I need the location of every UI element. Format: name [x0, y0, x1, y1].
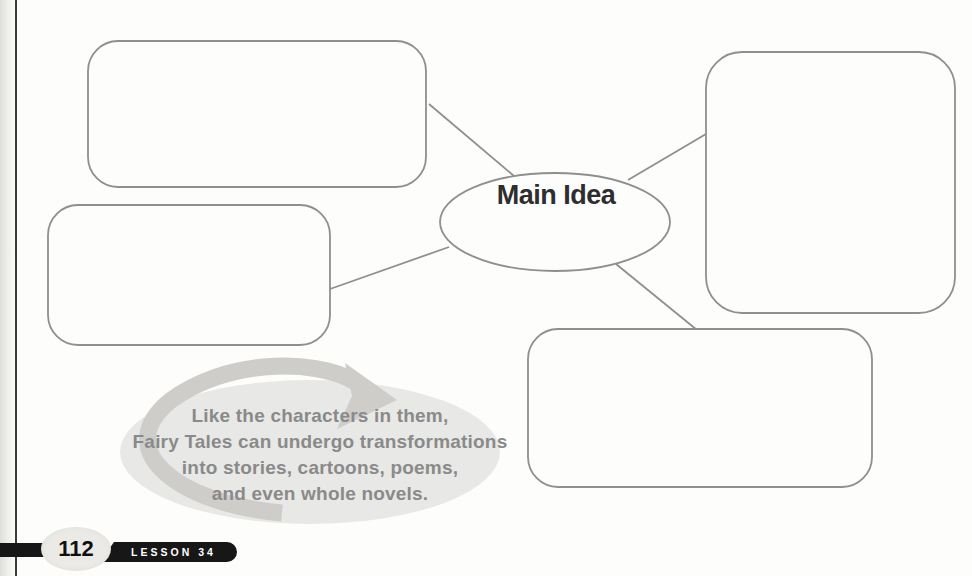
note-box-bottom-center[interactable]	[528, 329, 872, 487]
note-box-middle-left[interactable]	[48, 205, 330, 345]
note-box-right[interactable]	[706, 52, 955, 313]
connector-topleft-box	[429, 104, 514, 176]
lesson-badge: LESSON 34	[100, 542, 237, 562]
connector-middleleft-box	[330, 247, 449, 289]
connector-right-box	[628, 134, 706, 180]
main-idea-label: Main Idea	[440, 180, 672, 211]
callout-line: Fairy Tales can undergo transformations	[103, 429, 537, 455]
connector-bottom-box	[616, 264, 697, 330]
note-box-top-left[interactable]	[88, 41, 426, 187]
callout-text: Like the characters in them, Fairy Tales…	[103, 403, 537, 507]
callout-line: into stories, cartoons, poems,	[103, 455, 537, 481]
workbook-page: Main Idea Like the characters in them, F…	[0, 0, 972, 576]
page-number-bubble: 112	[41, 527, 111, 571]
callout-line: and even whole novels.	[103, 481, 537, 507]
callout-line: Like the characters in them,	[103, 403, 537, 429]
